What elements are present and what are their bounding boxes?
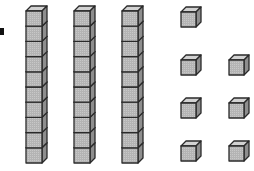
rod-cube-front [122,102,138,117]
rod-cube-front [122,148,138,163]
tens-rod [26,6,47,163]
unit-cube [181,7,201,27]
rod-cube-front [74,57,90,72]
unit-cube [181,141,201,161]
rod-cube-front [74,117,90,132]
rod-cube-front [26,72,42,87]
rod-cube-front [122,41,138,56]
unit-cube [181,98,201,118]
unit-cube-front [229,60,244,75]
rod-cube-front [74,102,90,117]
tens-rod [74,6,95,163]
rod-cube-front [74,148,90,163]
rod-cube-front [26,102,42,117]
unit-cube-front [229,103,244,118]
rod-cube-front [26,26,42,41]
unit-cube [229,55,249,75]
rod-cube-front [122,133,138,148]
rod-cube-front [74,41,90,56]
rod-cube-front [74,26,90,41]
tens-rod [122,6,143,163]
unit-cube-front [181,103,196,118]
rod-cube-front [26,148,42,163]
rod-cube-front [122,11,138,26]
rod-cube-front [122,87,138,102]
unit-cube [229,141,249,161]
rod-cube-front [26,117,42,132]
rod-cube-front [26,41,42,56]
rod-cube-front [26,11,42,26]
rod-cube-front [122,72,138,87]
rod-cube-front [74,87,90,102]
rod-cube-front [122,117,138,132]
unit-cube-front [229,146,244,161]
base-ten-blocks-diagram [0,0,254,171]
unit-cube [181,55,201,75]
unit-cube-front [181,146,196,161]
rod-cube-front [74,72,90,87]
rod-cube-front [26,133,42,148]
rod-cube-front [122,57,138,72]
unit-cube [229,98,249,118]
rod-cube-front [26,57,42,72]
unit-cube-front [181,60,196,75]
rod-cube-front [74,11,90,26]
rod-cube-front [26,87,42,102]
rod-cube-front [122,26,138,41]
unit-cube-front [181,12,196,27]
rod-cube-front [74,133,90,148]
blocks-canvas [0,0,254,171]
